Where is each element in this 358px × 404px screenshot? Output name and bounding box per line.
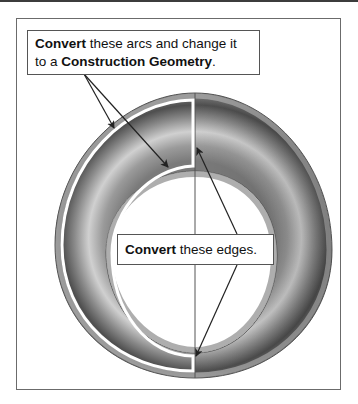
callout-convert-arcs: Convert these arcs and change it to a Co… [27,30,260,75]
callout-text: these edges. [176,242,257,257]
callout-bold-convert: Convert [125,242,176,257]
callout-text: . [212,54,216,69]
callout-bold-convert: Convert [35,36,86,51]
callout-bold-construction-geometry: Construction Geometry [61,54,212,69]
callout-text: to a [35,54,61,69]
callout-text: these arcs and change it [86,36,237,51]
callout-convert-edges: Convert these edges. [117,234,274,265]
arrow-outer-arc [84,74,114,128]
